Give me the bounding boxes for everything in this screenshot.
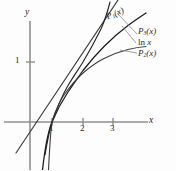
curve-label-p2: P2(x) xyxy=(138,49,156,59)
x-axis-label: x xyxy=(149,116,153,126)
x-tick-label-2: 2 xyxy=(80,124,85,133)
curve-label-p2-tail: (x) xyxy=(146,48,156,58)
axis-group xyxy=(4,21,148,170)
curve-label-p3-tail: (x) xyxy=(146,26,156,36)
curve-label-lnx: ln x xyxy=(138,38,151,47)
curve-label-p3: P3(x) xyxy=(138,27,156,37)
curve-label-lnx-main: ln xyxy=(138,37,147,47)
curve-label-lnx-tail: x xyxy=(147,37,151,47)
x-tick-label-1: 1 xyxy=(49,124,54,133)
x-tick-label-3: 3 xyxy=(110,124,115,133)
curve-p2 xyxy=(49,47,147,171)
leader-line-lnx xyxy=(122,26,136,43)
y-axis-label: y xyxy=(25,8,29,18)
label-leader-lines xyxy=(117,13,137,53)
y-tick-label-1: 1 xyxy=(15,56,20,65)
